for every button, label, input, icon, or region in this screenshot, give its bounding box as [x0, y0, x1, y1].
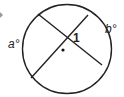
angle-label: 1: [73, 31, 80, 45]
center-point: [61, 48, 64, 51]
chord-1: [38, 14, 102, 65]
arc-label-a: a°: [8, 37, 20, 51]
bullet-marker-icon: [0, 12, 3, 18]
circle: [23, 5, 112, 94]
arc-label-b: b°: [105, 22, 117, 36]
circle-chords-diagram: 1 a° b°: [0, 0, 124, 97]
